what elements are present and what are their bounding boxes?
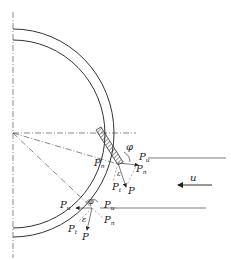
svg-text:Pt: Pt — [67, 223, 78, 235]
upper-parallelogram — [126, 166, 136, 187]
ring-force-diagram: u Pn φ Pu Pn ε Pt P Pu φ Pu Pn ε Pt P — [0, 0, 231, 260]
lower-eps-label: ε — [82, 215, 86, 224]
svg-text:Pn: Pn — [135, 163, 147, 175]
upper-phi-arc — [124, 152, 130, 162]
lower-phi-label: φ — [88, 197, 94, 206]
upper-resultant-label: P — [127, 185, 135, 196]
svg-text:Pn: Pn — [103, 214, 115, 226]
svg-text:Pu: Pu — [59, 199, 71, 211]
upper-force-pn — [118, 163, 138, 165]
svg-text:Pn: Pn — [93, 157, 105, 169]
svg-text:Pt: Pt — [111, 181, 122, 193]
flow-label: u — [190, 172, 196, 183]
lower-resultant-label: P — [81, 231, 89, 242]
diagram-canvas: u Pn φ Pu Pn ε Pt P Pu φ Pu Pn ε Pt P — [0, 0, 231, 260]
upper-phi-label: φ — [126, 141, 133, 152]
svg-text:Pu: Pu — [138, 151, 150, 163]
lower-normal — [92, 208, 103, 218]
radial-line-lower — [13, 133, 92, 208]
svg-text:Pu: Pu — [103, 199, 115, 211]
upper-eps-label: ε — [117, 170, 121, 178]
lower-force-p — [87, 208, 92, 230]
